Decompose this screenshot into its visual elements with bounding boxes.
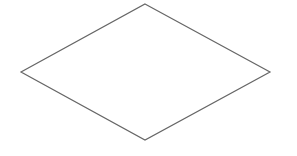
diagram-canvas (0, 0, 297, 156)
decision-diamond (21, 4, 270, 140)
diamond-shape-svg (0, 0, 297, 156)
